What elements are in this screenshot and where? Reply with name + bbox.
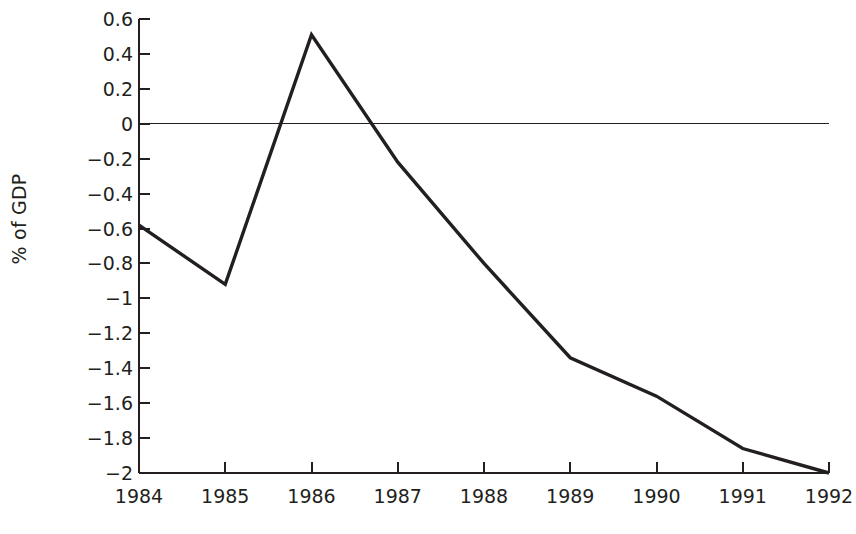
x-axis-tick-marks [225, 462, 829, 473]
data-series-line [139, 35, 829, 473]
figure-caption [8, 520, 848, 534]
